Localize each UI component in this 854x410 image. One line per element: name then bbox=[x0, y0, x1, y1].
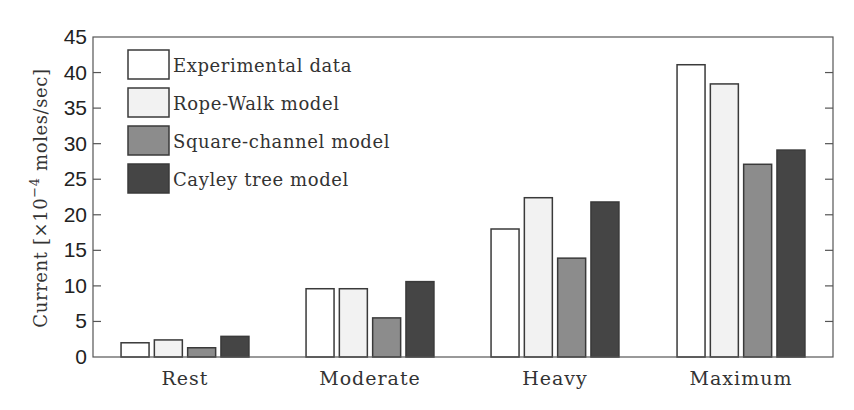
y-tick-label: 40 bbox=[64, 61, 87, 84]
bar-chart: 051015202530354045 RestModerateHeavyMaxi… bbox=[0, 0, 854, 410]
bar bbox=[154, 340, 182, 357]
y-tick-label: 25 bbox=[64, 167, 87, 190]
legend-swatch bbox=[128, 164, 169, 193]
x-axis-labels: RestModerateHeavyMaximum bbox=[162, 367, 793, 389]
x-category-label: Moderate bbox=[319, 367, 421, 389]
legend-label: Rope-Walk model bbox=[173, 93, 340, 114]
x-category-label: Rest bbox=[162, 367, 209, 389]
legend-label: Cayley tree model bbox=[173, 169, 349, 190]
x-category-label: Heavy bbox=[522, 367, 588, 389]
y-tick-label: 45 bbox=[64, 25, 87, 48]
bar bbox=[591, 202, 619, 357]
bar bbox=[491, 229, 519, 357]
y-tick-label: 20 bbox=[64, 203, 87, 226]
bar bbox=[777, 150, 805, 357]
bar bbox=[677, 65, 705, 357]
bar bbox=[710, 84, 738, 357]
bar bbox=[524, 198, 552, 357]
legend-label: Experimental data bbox=[173, 55, 352, 76]
legend: Experimental dataRope-Walk modelSquare-c… bbox=[128, 50, 390, 193]
bar bbox=[188, 348, 216, 357]
legend-label: Square-channel model bbox=[173, 131, 390, 152]
x-category-label: Maximum bbox=[690, 367, 793, 389]
y-tick-label: 0 bbox=[75, 345, 87, 368]
bar bbox=[121, 343, 149, 357]
legend-swatch bbox=[128, 88, 169, 117]
bar bbox=[339, 289, 367, 357]
legend-swatch bbox=[128, 126, 169, 155]
y-tick-label: 30 bbox=[64, 132, 87, 155]
y-axis-label: Current [×10−4 moles/sec] bbox=[27, 68, 51, 327]
bar bbox=[406, 282, 434, 357]
y-tick-label: 35 bbox=[64, 96, 87, 119]
bar bbox=[744, 164, 772, 357]
y-tick-label: 10 bbox=[64, 274, 87, 297]
bar bbox=[558, 258, 586, 357]
bar bbox=[306, 289, 334, 357]
y-tick-label: 5 bbox=[75, 309, 87, 332]
bar bbox=[221, 336, 249, 357]
legend-swatch bbox=[128, 50, 169, 79]
y-tick-label: 15 bbox=[64, 238, 87, 261]
bar bbox=[373, 318, 401, 357]
